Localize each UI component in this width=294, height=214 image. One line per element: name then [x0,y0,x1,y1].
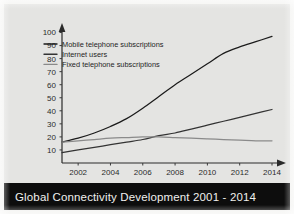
y-axis-tick-label: 70 [47,68,56,77]
legend-item-label: Fixed telephone subscriptions [62,60,160,69]
y-axis-tick-label: 40 [47,107,56,116]
chart-plot-area: 1020304050607080901002002200420062008201… [4,4,290,182]
caption-bar: Global Connectivity Development 2001 - 2… [4,183,290,210]
y-axis-tick-label: 90 [47,41,56,50]
series-line-3 [62,137,272,142]
line-chart: 1020304050607080901002002200420062008201… [4,4,290,182]
arrow-right-icon [277,160,286,167]
legend-item-label: Internet users [62,50,107,59]
caption-text: Global Connectivity Development 2001 - 2… [4,191,256,203]
arrow-up-icon [59,23,66,32]
legend-item-label: Mobile telephone subscriptions [62,40,164,49]
x-axis-tick-label: 2008 [166,168,184,177]
y-axis-tick-label: 60 [47,81,56,90]
y-axis-tick-label: 100 [43,28,57,37]
x-axis-tick-label: 2010 [198,168,216,177]
x-axis-tick-label: 2014 [263,168,281,177]
series-line-2 [62,110,272,153]
figure-root: 1020304050607080901002002200420062008201… [0,0,294,214]
y-axis-tick-label: 80 [47,55,56,64]
y-axis-tick-label: 10 [47,146,56,155]
x-axis-tick-label: 2002 [69,168,87,177]
y-axis-tick-label: 50 [47,94,56,103]
x-axis-tick-label: 2012 [231,168,249,177]
y-axis-tick-label: 30 [47,120,56,129]
y-axis-tick-label: 20 [47,133,56,142]
x-axis-tick-label: 2004 [102,168,120,177]
x-axis-tick-label: 2006 [134,168,152,177]
